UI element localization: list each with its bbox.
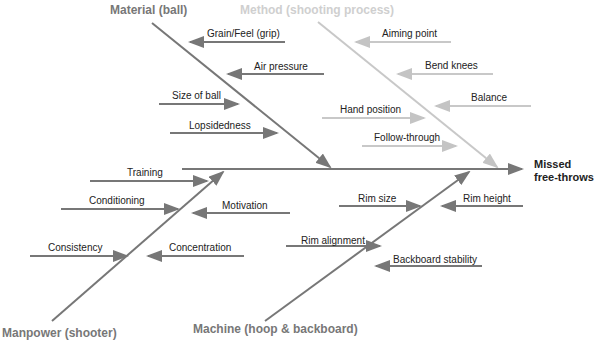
cause-label: Grain/Feel (grip) (207, 28, 280, 40)
cause-label: Backboard stability (393, 254, 477, 266)
cause-label: Follow-through (374, 132, 440, 144)
category-manpower: Manpower (shooter) (2, 326, 117, 340)
effect-line1: Missed (534, 158, 594, 171)
cause-label: Air pressure (254, 61, 308, 73)
effect-label: Missed free-throws (534, 158, 594, 184)
category-material: Material (ball) (110, 3, 187, 17)
category-method: Method (shooting process) (240, 3, 394, 17)
cause-label: Training (127, 167, 163, 179)
cause-label: Lopsidedness (189, 120, 251, 132)
cause-label: Motivation (222, 200, 268, 212)
cause-label: Hand position (340, 104, 401, 116)
cause-label: Conditioning (89, 195, 145, 207)
category-machine: Machine (hoop & backboard) (193, 322, 358, 336)
cause-label: Size of ball (172, 90, 221, 102)
cause-label: Balance (471, 92, 507, 104)
effect-line2: free-throws (534, 171, 594, 184)
cause-label: Consistency (48, 242, 102, 254)
cause-label: Aiming point (382, 28, 437, 40)
cause-label: Concentration (169, 242, 231, 254)
cause-label: Bend knees (425, 60, 478, 72)
cause-label: Rim alignment (301, 235, 365, 247)
cause-label: Rim size (358, 193, 396, 205)
cause-label: Rim height (463, 193, 511, 205)
fishbone-lines (0, 0, 597, 348)
